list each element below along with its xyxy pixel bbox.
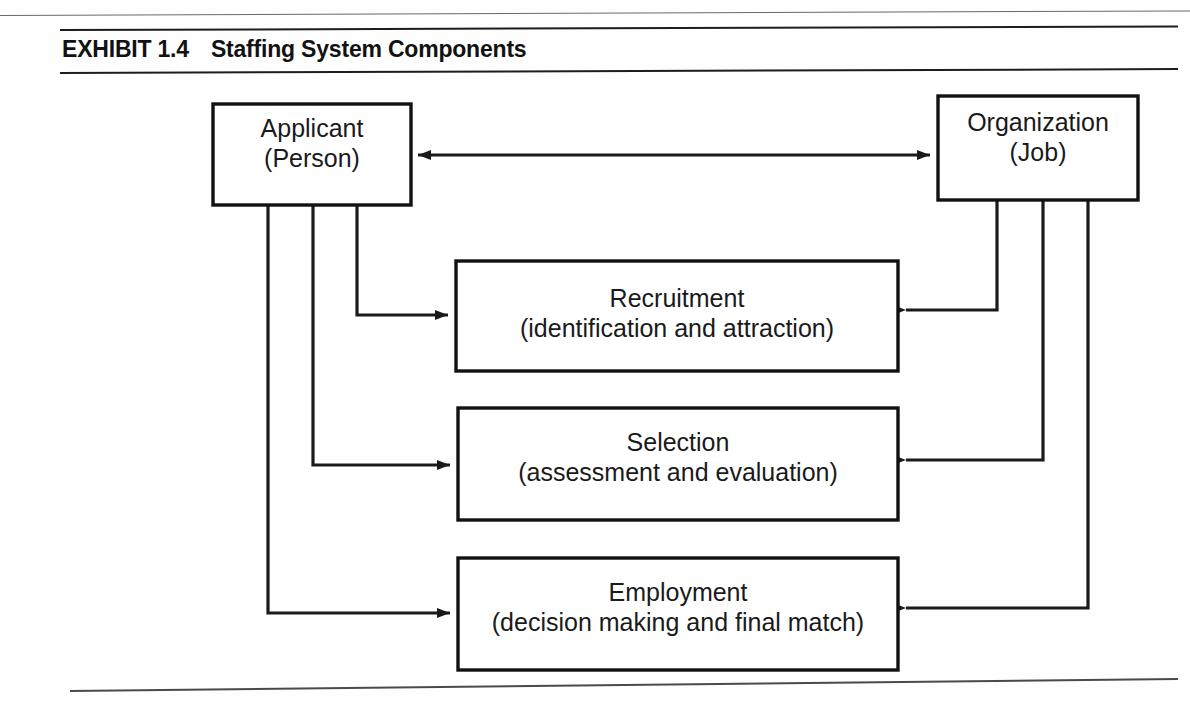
node-employment (458, 558, 898, 670)
node-selection (458, 408, 898, 520)
node-applicant (213, 104, 411, 205)
edge-applicant-selection (313, 205, 450, 465)
exhibit-page: EXHIBIT 1.4Staffing System Components (0, 0, 1190, 706)
node-recruitment (456, 261, 898, 371)
node-organization (938, 96, 1138, 200)
edge-applicant-employment (268, 205, 450, 613)
edge-organization-recruitment (906, 200, 997, 310)
edge-organization-selection (906, 200, 1043, 460)
staffing-system-diagram: Applicant (Person) Organization (Job) Re… (0, 0, 1190, 706)
edge-applicant-recruitment (357, 205, 448, 315)
